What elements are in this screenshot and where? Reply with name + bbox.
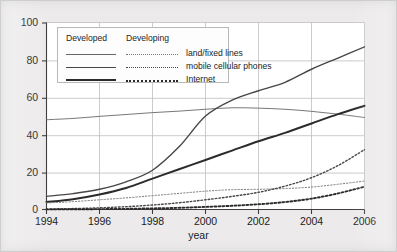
legend-column-header-developing: Developing [126, 33, 169, 43]
legend-row-land-fixed-lines: land/fixed lines [58, 49, 228, 61]
y-tick-label-40: 40 [8, 129, 38, 141]
legend-label-mobile-cellular-phones: mobile cellular phones [186, 61, 272, 71]
legend-swatch-developed-mobile-cellular-phones [66, 67, 116, 68]
chart-figure: 100 80 60 40 20 0 1994 1996 1998 2000 20… [0, 0, 397, 252]
y-tick-label-100: 100 [8, 16, 38, 28]
legend-swatch-developing-internet [126, 80, 178, 82]
x-tick-label-2006: 2006 [345, 215, 385, 227]
y-tick-label-0: 0 [8, 203, 38, 215]
x-tick-label-1994: 1994 [27, 215, 67, 227]
chart-legend: Developed Developing land/fixed lines mo… [57, 27, 229, 83]
legend-row-internet: Internet [58, 75, 228, 87]
x-tick-label-1998: 1998 [133, 215, 173, 227]
y-tick-label-20: 20 [8, 166, 38, 178]
x-axis [47, 210, 365, 215]
x-tick-label-1996: 1996 [80, 215, 120, 227]
legend-swatch-developed-land-fixed-lines [66, 54, 116, 55]
legend-column-header-developed: Developed [66, 33, 107, 43]
x-axis-title: year [0, 229, 397, 241]
legend-row-mobile-cellular-phones: mobile cellular phones [58, 62, 228, 74]
x-tick-label-2004: 2004 [292, 215, 332, 227]
x-tick-label-2000: 2000 [186, 215, 226, 227]
y-tick-label-60: 60 [8, 91, 38, 103]
legend-swatch-developing-mobile-cellular-phones [126, 67, 178, 68]
y-tick-label-80: 80 [8, 54, 38, 66]
y-axis [42, 23, 47, 210]
legend-label-land-fixed-lines: land/fixed lines [186, 48, 243, 58]
legend-swatch-developed-internet [66, 79, 116, 81]
legend-swatch-developing-land-fixed-lines [126, 54, 178, 55]
x-tick-label-2002: 2002 [239, 215, 279, 227]
legend-label-internet: Internet [186, 74, 215, 84]
